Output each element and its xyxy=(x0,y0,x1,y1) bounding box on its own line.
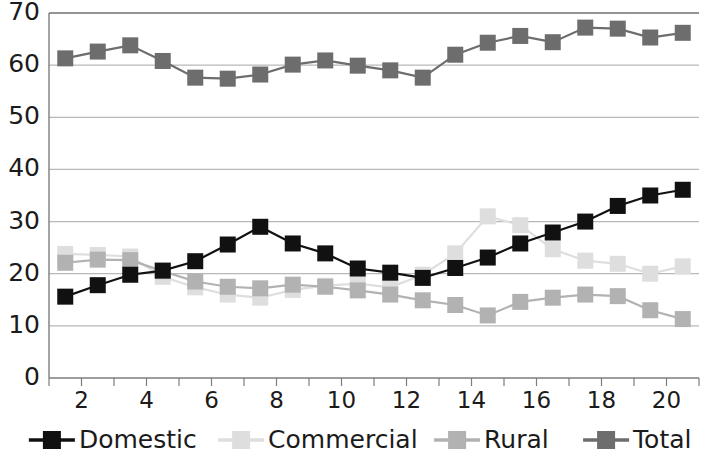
chart-canvas: 010203040506070 2468101214161820 Domesti… xyxy=(0,0,705,460)
data-point-marker xyxy=(155,263,171,279)
x-axis-labels-group: 2468101214161820 xyxy=(74,387,681,413)
legend-item-rural[interactable]: Rural xyxy=(434,425,549,454)
x-tick-label: 18 xyxy=(587,387,616,413)
data-point-marker xyxy=(187,70,203,86)
data-point-marker xyxy=(382,287,398,303)
data-point-marker xyxy=(577,253,593,269)
data-point-marker xyxy=(642,266,658,282)
data-point-marker xyxy=(252,219,268,235)
data-point-marker xyxy=(415,70,431,86)
data-point-marker xyxy=(480,250,496,266)
data-point-marker xyxy=(90,277,106,293)
y-axis-labels-group: 010203040506070 xyxy=(8,0,40,391)
data-point-marker xyxy=(350,282,366,298)
data-point-marker xyxy=(57,255,73,271)
series-rural xyxy=(57,252,691,327)
data-point-marker xyxy=(610,21,626,37)
data-point-marker xyxy=(122,267,138,283)
legend-label: Domestic xyxy=(79,425,197,454)
data-point-marker xyxy=(447,47,463,63)
x-tick-label: 6 xyxy=(204,387,219,413)
data-point-marker xyxy=(220,71,236,87)
x-tick-label: 16 xyxy=(522,387,551,413)
data-point-marker xyxy=(512,235,528,251)
data-point-marker xyxy=(447,297,463,313)
x-tick-label: 4 xyxy=(139,387,154,413)
x-tick-label: 12 xyxy=(392,387,421,413)
data-point-marker xyxy=(90,44,106,60)
legend-item-commercial[interactable]: Commercial xyxy=(218,425,418,454)
y-tick-label: 40 xyxy=(8,153,40,182)
data-point-marker xyxy=(642,302,658,318)
data-point-marker xyxy=(610,198,626,214)
data-point-marker xyxy=(545,290,561,306)
legend-marker xyxy=(448,431,466,449)
data-point-marker xyxy=(317,279,333,295)
data-point-marker xyxy=(187,253,203,269)
legend-item-total[interactable]: Total xyxy=(583,425,691,454)
legend-label: Total xyxy=(632,425,691,454)
data-point-marker xyxy=(577,287,593,303)
y-tick-label: 10 xyxy=(8,310,40,339)
data-point-marker xyxy=(285,57,301,73)
legend-marker xyxy=(43,431,61,449)
y-tick-label: 30 xyxy=(8,206,40,235)
data-point-marker xyxy=(642,188,658,204)
y-tick-label: 20 xyxy=(8,258,40,287)
data-point-marker xyxy=(285,235,301,251)
data-point-marker xyxy=(675,258,691,274)
data-point-marker xyxy=(415,292,431,308)
data-point-marker xyxy=(577,20,593,36)
data-point-marker xyxy=(512,294,528,310)
data-point-marker xyxy=(220,237,236,253)
y-tick-label: 70 xyxy=(8,0,40,26)
data-point-marker xyxy=(545,241,561,257)
x-tick-label: 8 xyxy=(269,387,284,413)
series-commercial xyxy=(57,208,691,305)
data-point-marker xyxy=(480,35,496,51)
data-point-marker xyxy=(545,225,561,241)
data-point-marker xyxy=(155,53,171,69)
data-point-marker xyxy=(252,67,268,83)
data-point-marker xyxy=(57,50,73,66)
data-point-marker xyxy=(90,252,106,268)
x-tick-label: 10 xyxy=(327,387,356,413)
y-tick-label: 0 xyxy=(24,362,40,391)
x-tick-label: 14 xyxy=(457,387,486,413)
data-point-marker xyxy=(675,311,691,327)
series-total xyxy=(57,20,691,87)
data-point-marker xyxy=(512,217,528,233)
y-tick-label: 50 xyxy=(8,101,40,130)
gridlines-group xyxy=(49,13,699,326)
data-point-marker xyxy=(642,30,658,46)
legend-marker xyxy=(597,431,615,449)
data-point-marker xyxy=(122,252,138,268)
data-point-marker xyxy=(122,37,138,53)
data-point-marker xyxy=(350,58,366,74)
legend-label: Rural xyxy=(484,425,549,454)
data-point-marker xyxy=(675,25,691,41)
data-point-marker xyxy=(480,208,496,224)
data-point-marker xyxy=(447,260,463,276)
data-point-marker xyxy=(577,214,593,230)
data-point-marker xyxy=(675,182,691,198)
x-axis-group xyxy=(49,378,699,386)
legend-marker xyxy=(232,431,250,449)
legend-item-domestic[interactable]: Domestic xyxy=(29,425,197,454)
data-point-marker xyxy=(317,245,333,261)
data-point-marker xyxy=(382,265,398,281)
data-point-marker xyxy=(610,288,626,304)
data-point-marker xyxy=(610,256,626,272)
data-point-marker xyxy=(317,52,333,68)
data-point-marker xyxy=(252,280,268,296)
x-tick-label: 2 xyxy=(74,387,89,413)
legend-label: Commercial xyxy=(268,425,418,454)
data-point-marker xyxy=(545,34,561,50)
data-point-marker xyxy=(57,289,73,305)
data-point-marker xyxy=(415,270,431,286)
data-point-marker xyxy=(480,307,496,323)
data-point-marker xyxy=(447,245,463,261)
data-point-marker xyxy=(285,277,301,293)
line-chart: 010203040506070 2468101214161820 Domesti… xyxy=(0,0,705,460)
x-tick-label: 20 xyxy=(652,387,681,413)
